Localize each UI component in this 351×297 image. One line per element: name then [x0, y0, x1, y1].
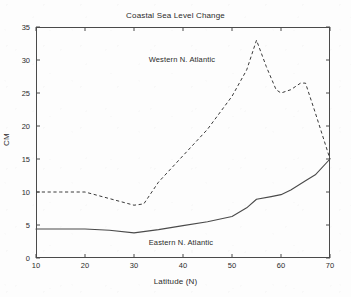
figure-container: Coastal Sea Level Change CM Latitude (N)… [0, 0, 351, 297]
series-line-eastern-n-atlantic [36, 159, 330, 233]
series-line-western-n-atlantic [36, 40, 330, 205]
chart-svg [0, 0, 351, 297]
axis-ticks [36, 27, 330, 258]
